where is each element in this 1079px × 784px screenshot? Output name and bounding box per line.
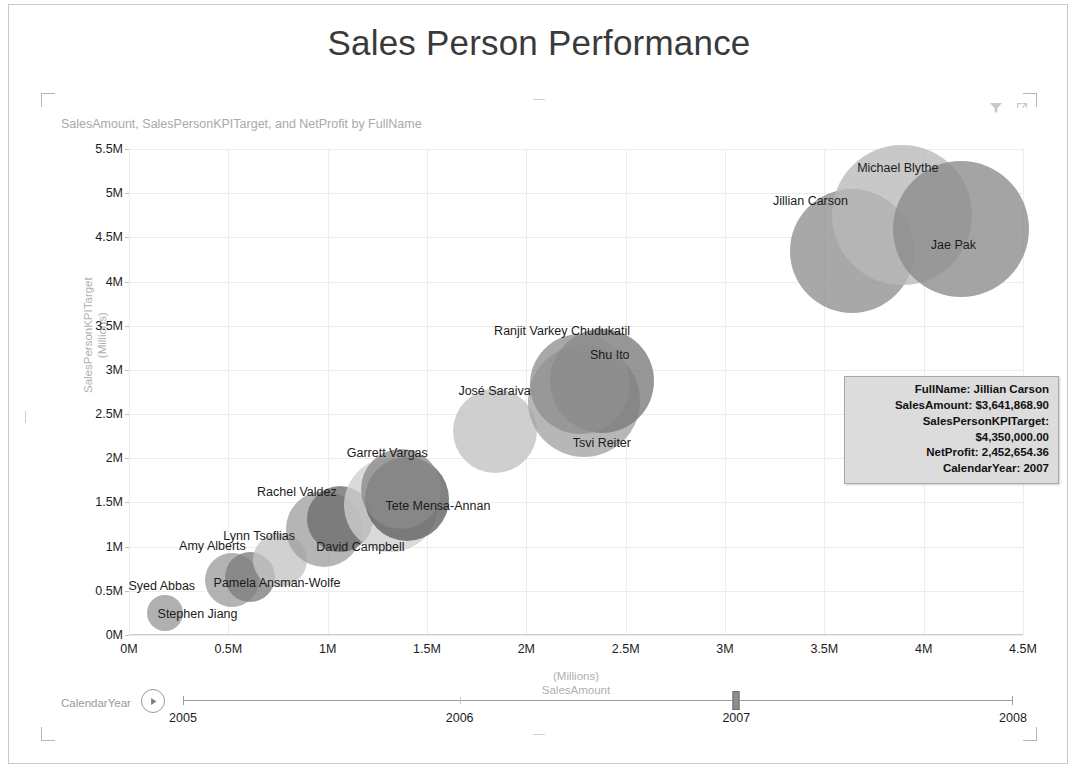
y-axis-tick-mark [125,414,129,415]
x-axis-tick-label: 0.5M [214,642,242,656]
visual-header-actions [989,101,1029,115]
x-axis-tick-label: 4M [915,642,932,656]
y-axis-tick-label: 2M [106,451,123,465]
y-axis-tick-label: 0M [106,628,123,642]
y-axis-tick-mark [125,502,129,503]
y-axis-tick-mark [125,458,129,459]
bubble-data-point[interactable] [893,161,1029,297]
selection-handle-left[interactable] [25,411,26,423]
selection-corner-bottom-right[interactable] [1023,727,1037,741]
track-end-cap [1012,696,1013,705]
bubble-data-point[interactable] [147,595,183,631]
tooltip-row: SalesAmount: $3,641,868.90 [854,398,1049,414]
visual-header-title: SalesAmount, SalesPersonKPITarget, and N… [61,117,422,131]
tooltip-row: CalendarYear: 2007 [854,461,1049,477]
y-axis-tick-mark [125,370,129,371]
bubble-data-point[interactable] [530,334,630,434]
play-axis-label: CalendarYear [61,697,131,709]
y-axis-tick-label: 4M [106,275,123,289]
filter-icon[interactable] [989,101,1003,115]
gridline-horizontal [129,502,1023,503]
x-axis-tick-label: 1.5M [413,642,441,656]
focus-mode-icon[interactable] [1015,101,1029,115]
track-start-cap [183,696,184,705]
play-axis-year-label[interactable]: 2006 [446,711,474,725]
y-axis-tick-mark [125,282,129,283]
play-axis-year-label[interactable]: 2005 [169,711,197,725]
gridline-vertical [725,149,726,635]
play-icon[interactable] [141,689,165,713]
y-axis-tick-mark [125,193,129,194]
y-axis-tick-label: 1.5M [95,495,123,509]
y-axis-tick-label: 3.5M [95,319,123,333]
gridline-horizontal [129,635,1023,636]
selection-handle-top[interactable] [533,99,545,100]
y-axis-tick-label: 5M [106,186,123,200]
data-point-tooltip: FullName: Jillian CarsonSalesAmount: $3,… [844,376,1059,484]
tooltip-row: NetProfit: 2,452,654.36 [854,445,1049,461]
selection-corner-top-left[interactable] [41,93,55,107]
x-axis-tick-label: 3M [716,642,733,656]
gridline-vertical [526,149,527,635]
y-axis-tick-mark [125,326,129,327]
play-axis-year-label[interactable]: 2008 [999,711,1027,725]
x-axis-tick-label: 1M [319,642,336,656]
play-axis-handle[interactable] [733,691,740,710]
x-axis-unit-label: (Millions) [553,670,599,682]
x-axis-tick-label: 2.5M [612,642,640,656]
selection-corner-bottom-left[interactable] [41,727,55,741]
y-axis-tick-mark [125,237,129,238]
tooltip-row: SalesPersonKPITarget: $4,350,000.00 [854,414,1049,446]
page-title: Sales Person Performance [9,23,1069,63]
scatter-chart-visual[interactable]: SalesAmount, SalesPersonKPITarget, and N… [39,93,1039,741]
y-axis-tick-label: 2.5M [95,407,123,421]
y-axis-tick-mark [125,149,129,150]
y-axis-tick-mark [125,591,129,592]
y-axis-tick-label: 5.5M [95,142,123,156]
gridline-vertical [129,149,130,635]
x-axis-tick-label: 4.5M [1009,642,1037,656]
play-axis-track[interactable] [183,700,1013,701]
bubble-data-point[interactable] [361,449,441,529]
play-axis-tick-mark [460,697,461,704]
calendar-year-play-axis[interactable]: CalendarYear 2005200620072008 [61,689,1021,737]
y-axis-tick-mark [125,547,129,548]
play-axis-year-label[interactable]: 2007 [722,711,750,725]
x-axis-tick-label: 2M [518,642,535,656]
x-axis-tick-label: 3.5M [810,642,838,656]
y-axis-tick-label: 0.5M [95,584,123,598]
gridline-vertical [427,149,428,635]
report-page-frame: Sales Person Performance SalesAmount, Sa… [8,4,1068,764]
y-axis-tick-label: 4.5M [95,230,123,244]
y-axis-tick-label: 1M [106,540,123,554]
x-axis-tick-label: 0M [120,642,137,656]
gridline-horizontal [129,326,1023,327]
x-axis-line [129,634,1023,635]
bubble-data-point[interactable] [453,389,537,473]
y-axis-tick-label: 3M [106,363,123,377]
tooltip-row: FullName: Jillian Carson [854,382,1049,398]
y-axis-tick-mark [125,635,129,636]
y-axis-measure-label: SalesPersonKPITarget [82,277,94,393]
